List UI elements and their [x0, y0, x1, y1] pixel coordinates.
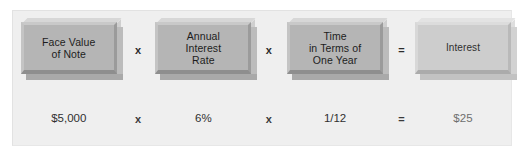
box-side-shadow: [511, 27, 517, 76]
value-interest: $25: [414, 113, 512, 125]
multiplication-operator-icon: x: [135, 45, 141, 56]
term-annual-interest-rate: Annual Interest Rate: [150, 22, 256, 78]
box-label-time-in-terms-of-one-year: Time in Terms of One Year: [306, 30, 364, 66]
term-time-in-terms-of-one-year: Time in Terms of One Year: [281, 22, 389, 78]
value-face-value: $5,000: [12, 113, 125, 125]
equals-operator-icon: =: [398, 45, 404, 56]
value-operator-equals: =: [389, 114, 414, 125]
value-operator-multiply-2: x: [256, 114, 281, 125]
box-face: Face Value of Note: [21, 22, 117, 74]
term-face-value: Face Value of Note: [12, 22, 125, 78]
value-operator-multiply-1: x: [125, 114, 150, 125]
box-label-interest: Interest: [443, 42, 483, 54]
operator-equals: =: [389, 22, 414, 78]
box-time-in-terms-of-one-year: Time in Terms of One Year: [287, 22, 383, 78]
label-line: of Note: [51, 48, 86, 60]
label-line: Annual: [187, 30, 220, 42]
label-line: Face Value: [42, 36, 95, 48]
value-text-face-value: $5,000: [51, 113, 86, 125]
box-interest: Interest: [415, 22, 511, 78]
box-under-shadow: [26, 74, 123, 80]
label-line: Time: [323, 30, 346, 42]
box-under-shadow: [292, 74, 389, 80]
box-under-shadow: [160, 74, 257, 80]
formula-box-row: Face Value of Note x Annual Interest: [12, 22, 512, 88]
multiplication-operator-icon: x: [266, 114, 272, 125]
value-time-in-terms-of-one-year: 1/12: [281, 113, 389, 125]
box-face: Annual Interest Rate: [155, 22, 251, 74]
multiplication-operator-icon: x: [266, 45, 272, 56]
equals-operator-icon: =: [398, 114, 404, 125]
term-interest: Interest: [414, 22, 512, 78]
box-face: Time in Terms of One Year: [287, 22, 383, 74]
box-under-shadow: [420, 74, 517, 80]
value-text-time-in-terms-of-one-year: 1/12: [324, 113, 346, 125]
box-side-shadow: [251, 27, 257, 76]
value-annual-interest-rate: 6%: [150, 113, 256, 125]
formula-value-row: $5,000 x 6% x 1/12 = $25: [12, 108, 512, 130]
box-side-shadow: [383, 27, 389, 76]
label-line: Interest: [185, 42, 221, 54]
box-side-shadow: [117, 27, 123, 76]
interest-formula-figure: Face Value of Note x Annual Interest: [0, 0, 524, 158]
label-line: in Terms of: [309, 42, 361, 54]
operator-multiply-2: x: [256, 22, 281, 78]
box-annual-interest-rate: Annual Interest Rate: [155, 22, 251, 78]
label-line: One Year: [313, 54, 358, 66]
value-text-annual-interest-rate: 6%: [195, 113, 212, 125]
label-line: Rate: [192, 54, 215, 66]
value-text-interest: $25: [453, 113, 472, 125]
operator-multiply-1: x: [125, 22, 150, 78]
box-face-value: Face Value of Note: [21, 22, 117, 78]
box-face: Interest: [415, 22, 511, 74]
multiplication-operator-icon: x: [135, 114, 141, 125]
label-line: Interest: [446, 42, 480, 53]
box-label-annual-interest-rate: Annual Interest Rate: [182, 30, 224, 66]
box-label-face-value: Face Value of Note: [39, 36, 98, 60]
